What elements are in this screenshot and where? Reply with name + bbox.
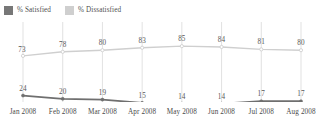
data-label: 81 <box>258 38 265 46</box>
data-point[interactable] <box>141 101 144 102</box>
x-tick-label: Feb 2008 <box>49 108 77 117</box>
data-label: 17 <box>297 90 304 98</box>
x-tick-label: Mar 2008 <box>88 108 117 117</box>
x-tick-label: Apr 2008 <box>128 108 156 117</box>
data-label: 80 <box>297 39 304 47</box>
x-tick-label: Jul 2008 <box>249 108 274 117</box>
data-point[interactable] <box>101 49 104 52</box>
data-label: 20 <box>59 88 66 96</box>
data-point[interactable] <box>299 49 302 52</box>
legend-swatch-satisfied <box>4 6 13 15</box>
data-point[interactable] <box>141 46 144 49</box>
data-label: 24 <box>19 85 26 93</box>
data-label: 80 <box>99 39 106 47</box>
data-point[interactable] <box>180 45 183 48</box>
data-point[interactable] <box>300 100 303 102</box>
plot-area: 73788083858481802420191514141717 <box>0 20 326 102</box>
legend-swatch-dissatisfied <box>65 6 74 15</box>
data-point[interactable] <box>220 45 223 48</box>
data-point[interactable] <box>260 48 263 51</box>
satisfaction-line-chart: % Satisfied % Dissatisfied 7378808385848… <box>0 0 326 126</box>
x-tick-label: Aug 2008 <box>286 108 315 117</box>
data-label: 73 <box>18 46 25 54</box>
legend-entry-satisfied[interactable]: % Satisfied <box>4 6 51 15</box>
legend-label-satisfied: % Satisfied <box>17 6 51 15</box>
plot-svg <box>0 20 326 102</box>
data-point[interactable] <box>260 100 263 102</box>
x-axis: Jan 2008Feb 2008Mar 2008Apr 2008May 2008… <box>0 104 326 124</box>
legend-label-dissatisfied: % Dissatisfied <box>78 6 121 15</box>
data-label: 19 <box>99 89 106 97</box>
data-label: 14 <box>218 93 225 101</box>
data-label: 84 <box>218 36 225 44</box>
data-label: 14 <box>178 93 185 101</box>
x-tick-label: Jun 2008 <box>208 108 235 117</box>
data-label: 17 <box>258 90 265 98</box>
data-label: 15 <box>138 92 145 100</box>
x-tick-label: May 2008 <box>167 108 197 117</box>
chart-legend: % Satisfied % Dissatisfied <box>4 3 121 17</box>
data-point[interactable] <box>21 54 24 57</box>
data-point[interactable] <box>61 97 64 100</box>
data-point[interactable] <box>61 50 64 53</box>
data-label: 85 <box>178 35 185 43</box>
legend-entry-dissatisfied[interactable]: % Dissatisfied <box>65 6 121 15</box>
data-point[interactable] <box>22 94 25 97</box>
data-label: 83 <box>138 37 145 45</box>
data-label: 78 <box>59 41 66 49</box>
data-point[interactable] <box>101 98 104 101</box>
x-tick-label: Jan 2008 <box>10 108 37 117</box>
